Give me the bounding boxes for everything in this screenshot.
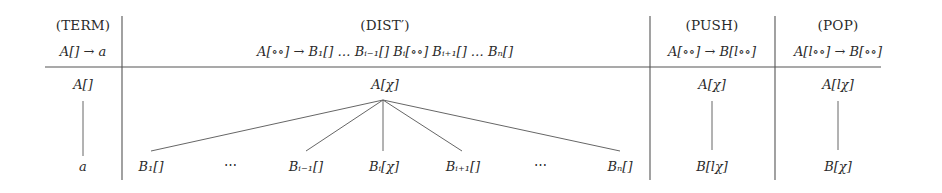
pop-rule: A[l∘∘] → B[∘∘]	[794, 45, 882, 58]
dist-tree-edges	[151, 100, 620, 151]
dist-rule: A[∘∘] → B₁[] … Bᵢ₋₁[] Bᵢ[∘∘] Bᵢ₊₁[] … Bₙ…	[257, 45, 513, 58]
push-tree-root: A[χ]	[698, 78, 725, 91]
push-tree-leaf: B[lχ]	[696, 160, 728, 173]
dist-tree-ellipsis-left: ⋯	[224, 158, 237, 171]
pop-header: (POP)	[818, 19, 859, 33]
dist-header: (DIST′)	[360, 19, 409, 33]
dist-tree-leaf-bi-minus-1: Bᵢ₋₁[]	[289, 160, 323, 173]
pop-tree-root: A[lχ]	[822, 78, 854, 91]
push-rule: A[∘∘] → B[l∘∘]	[668, 45, 756, 58]
pop-tree-leaf: B[χ]	[824, 160, 852, 173]
dist-tree-ellipsis-right: ⋯	[534, 158, 547, 171]
dist-tree-root: A[χ]	[371, 78, 398, 91]
term-header: (TERM)	[56, 19, 111, 33]
dist-tree-leaf-bn: Bₙ[]	[608, 160, 633, 173]
push-header: (PUSH)	[686, 19, 739, 33]
dist-tree-leaf-bi: Bᵢ[χ]	[369, 160, 399, 173]
dist-tree-leaf-bi-plus-1: Bᵢ₊₁[]	[446, 160, 480, 173]
term-rule: A[] → a	[60, 45, 106, 58]
term-tree-leaf: a	[79, 160, 87, 173]
term-tree-root: A[]	[73, 78, 93, 91]
dist-tree-leaf-b1: B₁[]	[139, 160, 164, 173]
rule-table-diagram: (TERM) (DIST′) (PUSH) (POP) A[] → a A[∘∘…	[0, 0, 942, 193]
